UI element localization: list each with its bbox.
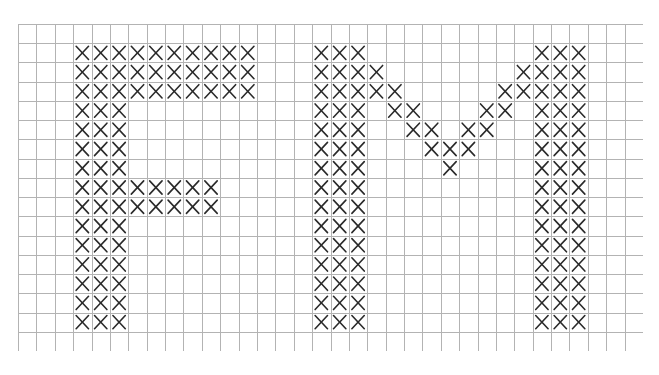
cross-stitch-x-icon <box>76 219 88 232</box>
cross-stitch-x-icon <box>76 142 88 155</box>
cross-stitch-x-icon <box>352 200 364 213</box>
cross-stitch-x-icon <box>205 200 217 213</box>
cross-stitch-x-icon <box>572 123 584 136</box>
cross-stitch-x-icon <box>370 65 382 78</box>
cross-stitch-x-icon <box>517 65 529 78</box>
cross-stitch-x-icon <box>352 219 364 232</box>
cross-stitch-x-icon <box>76 162 88 175</box>
cross-stitch-x-icon <box>150 85 162 98</box>
cross-stitch-x-icon <box>315 123 327 136</box>
cross-stitch-x-icon <box>76 85 88 98</box>
cross-stitch-x-icon <box>352 65 364 78</box>
cross-stitch-x-icon <box>536 200 548 213</box>
cross-stitch-x-icon <box>572 316 584 329</box>
cross-stitch-x-icon <box>131 181 143 194</box>
cross-stitch-x-icon <box>76 296 88 309</box>
cross-stitch-x-icon <box>76 46 88 59</box>
cross-stitch-x-icon <box>150 46 162 59</box>
cross-stitch-x-icon <box>352 123 364 136</box>
cross-stitch-x-icon <box>76 104 88 117</box>
cross-stitch-x-icon <box>150 65 162 78</box>
cross-stitch-x-icon <box>352 316 364 329</box>
cross-stitch-x-icon <box>536 65 548 78</box>
cross-stitch-x-icon <box>76 277 88 290</box>
cross-stitch-x-icon <box>205 65 217 78</box>
cross-stitch-x-icon <box>205 85 217 98</box>
cross-stitch-x-icon <box>536 258 548 271</box>
cross-stitch-x-icon <box>572 104 584 117</box>
cross-stitch-x-icon <box>536 239 548 252</box>
cross-stitch-x-icon <box>334 85 346 98</box>
cross-stitch-x-icon <box>536 181 548 194</box>
cross-stitch-x-icon <box>536 296 548 309</box>
cross-stitch-x-icon <box>131 46 143 59</box>
cross-stitch-x-icon <box>315 46 327 59</box>
cross-stitch-x-icon <box>95 162 107 175</box>
cross-stitch-x-icon <box>113 277 125 290</box>
cross-stitch-grid <box>18 24 643 351</box>
cross-stitch-pattern-canvas <box>18 24 643 351</box>
cross-stitch-x-icon <box>554 219 566 232</box>
cross-stitch-x-icon <box>95 316 107 329</box>
cross-stitch-x-icon <box>186 181 198 194</box>
cross-stitch-x-icon <box>168 46 180 59</box>
cross-stitch-x-icon <box>352 296 364 309</box>
cross-stitch-x-icon <box>150 181 162 194</box>
cross-stitch-x-icon <box>554 104 566 117</box>
cross-stitch-x-icon <box>76 316 88 329</box>
cross-stitch-x-icon <box>572 219 584 232</box>
cross-stitch-x-icon <box>315 277 327 290</box>
cross-stitch-x-icon <box>223 85 235 98</box>
cross-stitch-x-icon <box>315 104 327 117</box>
cross-stitch-x-icon <box>536 316 548 329</box>
cross-stitch-x-icon <box>352 277 364 290</box>
cross-stitch-x-icon <box>334 277 346 290</box>
grid-lines <box>18 24 643 351</box>
cross-stitch-x-icon <box>334 104 346 117</box>
cross-stitch-x-icon <box>352 181 364 194</box>
cross-stitch-x-icon <box>554 277 566 290</box>
cross-stitch-x-icon <box>334 162 346 175</box>
cross-stitch-x-icon <box>95 239 107 252</box>
cross-stitch-x-icon <box>334 316 346 329</box>
cross-stitch-x-icon <box>462 123 474 136</box>
cross-stitch-x-icon <box>76 200 88 213</box>
cross-stitch-x-icon <box>370 85 382 98</box>
cross-stitch-x-icon <box>334 200 346 213</box>
cross-stitch-x-icon <box>113 200 125 213</box>
cross-stitch-x-icon <box>168 65 180 78</box>
cross-stitch-x-icon <box>334 219 346 232</box>
cross-stitch-x-icon <box>462 142 474 155</box>
cross-stitch-x-icon <box>572 65 584 78</box>
cross-stitch-x-icon <box>536 123 548 136</box>
cross-stitch-x-icon <box>223 46 235 59</box>
cross-stitch-x-icon <box>113 162 125 175</box>
cross-stitch-x-icon <box>334 123 346 136</box>
cross-stitch-x-icon <box>499 85 511 98</box>
cross-stitch-x-icon <box>334 239 346 252</box>
cross-stitch-x-icon <box>113 123 125 136</box>
cross-stitch-x-icon <box>113 85 125 98</box>
cross-stitch-x-icon <box>95 181 107 194</box>
cross-stitch-x-icon <box>481 104 493 117</box>
cross-stitch-x-icon <box>113 46 125 59</box>
cross-stitch-x-icon <box>554 181 566 194</box>
cross-stitch-x-icon <box>536 46 548 59</box>
cross-stitch-x-icon <box>572 181 584 194</box>
cross-stitch-x-icon <box>389 85 401 98</box>
cross-stitch-x-icon <box>572 200 584 213</box>
cross-stitch-x-icon <box>352 258 364 271</box>
cross-stitch-x-icon <box>572 277 584 290</box>
cross-stitch-x-icon <box>554 85 566 98</box>
cross-stitch-x-icon <box>113 316 125 329</box>
cross-stitch-x-icon <box>76 123 88 136</box>
cross-stitch-x-icon <box>76 65 88 78</box>
cross-stitch-x-icon <box>95 277 107 290</box>
cross-stitch-x-icon <box>315 296 327 309</box>
cross-stitch-x-icon <box>352 142 364 155</box>
cross-stitch-x-icon <box>186 200 198 213</box>
cross-stitch-x-icon <box>536 277 548 290</box>
cross-stitch-x-icon <box>554 142 566 155</box>
cross-stitch-x-icon <box>113 181 125 194</box>
cross-stitch-x-icon <box>572 85 584 98</box>
